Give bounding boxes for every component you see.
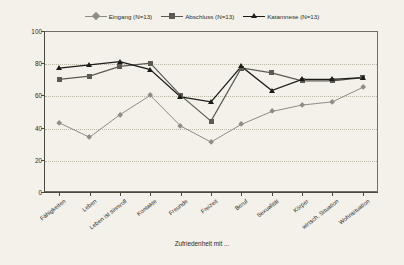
x-tick-label-6: Beruf [234, 198, 249, 211]
gridline-20 [45, 161, 377, 162]
chart-legend: Eingang (N=13)Abschluss (N=13)Katamnese … [0, 12, 404, 20]
x-tick-label-10: Wohnsituation [337, 198, 370, 226]
x-tick-label-7: Sexualität [255, 198, 279, 219]
legend-label-0: Eingang (N=13) [109, 13, 153, 20]
y-tick-label-80: 80 [16, 60, 42, 67]
x-tick-label-3: Kontakte [136, 198, 158, 217]
y-tick-label-60: 60 [16, 92, 42, 99]
y-tick-label-20: 20 [16, 156, 42, 163]
legend-label-1: Abschluss (N=13) [185, 13, 234, 20]
x-tick-label-1: Leben [81, 198, 98, 213]
y-tick-label-0: 0 [16, 189, 42, 196]
chart-screenshot: Eingang (N=13)Abschluss (N=13)Katamnese … [0, 0, 404, 265]
x-tick-label-8: Körper [292, 198, 310, 214]
gridline-40 [45, 129, 377, 130]
legend-swatch-diamond-icon [85, 12, 107, 20]
legend-item-2: Katamnese (N=13) [243, 12, 319, 20]
x-axis-spine [44, 192, 378, 193]
x-tick-label-5: Freizeit [200, 198, 219, 215]
legend-item-0: Eingang (N=13) [85, 12, 153, 20]
legend-item-1: Abschluss (N=13) [161, 12, 234, 20]
legend-swatch-square-icon [161, 12, 183, 20]
legend-label-2: Katamnese (N=13) [267, 13, 319, 20]
legend-swatch-triangle-icon [243, 12, 265, 20]
y-tick-label-100: 100 [16, 28, 42, 35]
x-axis-title: Zufriedenheit mit ... [0, 240, 404, 247]
gridline-60 [45, 96, 377, 97]
x-tick-label-0: Fähigkeiten [39, 198, 67, 221]
y-axis-spine [44, 31, 45, 192]
y-tick-label-40: 40 [16, 124, 42, 131]
x-tick-label-4: Freunde [167, 198, 188, 216]
plot-area [44, 31, 378, 192]
gridline-80 [45, 64, 377, 65]
